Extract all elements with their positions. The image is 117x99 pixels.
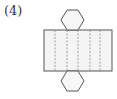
lateral-faces-rectangle	[44, 30, 112, 71]
top-hexagon-face	[61, 10, 84, 30]
hexagonal-prism-net-figure	[0, 0, 117, 99]
bottom-hexagon-face	[61, 71, 84, 91]
